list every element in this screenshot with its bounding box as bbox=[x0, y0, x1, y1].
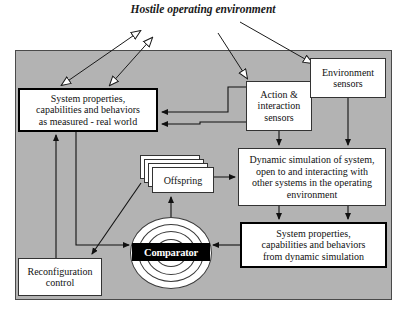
arrow-env-to-sysprops-a bbox=[62, 31, 140, 85]
arrow-action-sensors-to-sysprops-1 bbox=[162, 87, 246, 112]
node-reconfiguration-control[interactable]: Reconfiguration control bbox=[18, 258, 102, 296]
node-environment-sensors[interactable]: Environment sensors bbox=[310, 58, 386, 98]
node-label: Action & interaction sensors bbox=[258, 89, 301, 124]
diagram-canvas: Hostile operating environment System pro… bbox=[0, 0, 407, 315]
node-offspring-stack[interactable]: Offspring bbox=[140, 155, 214, 197]
arrow-env-to-action-sensors bbox=[218, 33, 247, 78]
node-label: Environment sensors bbox=[322, 67, 374, 90]
node-dynamic-simulation[interactable]: Dynamic simulation of system, open to an… bbox=[238, 148, 386, 206]
arrow-env-to-environment-sensors bbox=[240, 22, 312, 63]
node-label: Reconfiguration control bbox=[28, 266, 93, 289]
node-action-interaction-sensors[interactable]: Action & interaction sensors bbox=[246, 81, 312, 131]
node-label: Offspring bbox=[164, 175, 203, 186]
arrow-action-sensors-to-sysprops-2 bbox=[162, 122, 246, 124]
arrow-env-to-sysprops-b bbox=[110, 38, 152, 85]
node-system-properties-from-simulation[interactable]: System properties, capabilities and beha… bbox=[240, 222, 387, 268]
comparator-label: Comparator bbox=[132, 243, 210, 261]
arrow-sysprops-real-to-comparator bbox=[76, 132, 129, 245]
offspring-sheet-front[interactable]: Offspring bbox=[152, 167, 214, 193]
node-label: System properties, capabilities and beha… bbox=[36, 93, 140, 128]
node-comparator-bullseye[interactable]: Comparator bbox=[130, 217, 212, 289]
node-label: Dynamic simulation of system, open to an… bbox=[250, 154, 375, 200]
node-system-properties-real-world[interactable]: System properties, capabilities and beha… bbox=[18, 88, 158, 132]
diagram-title: Hostile operating environment bbox=[128, 3, 278, 16]
node-label: System properties, capabilities and beha… bbox=[262, 228, 366, 263]
